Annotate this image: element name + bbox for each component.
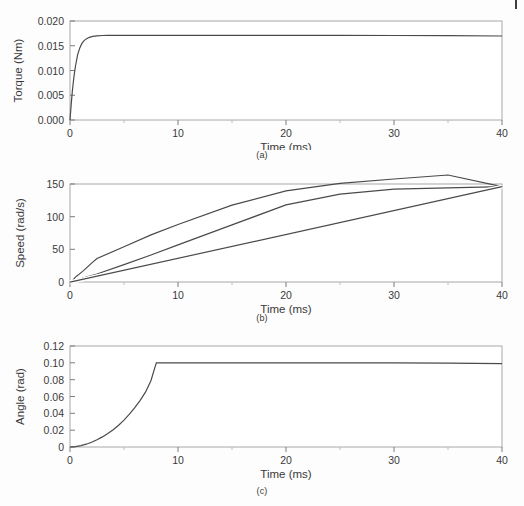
y-tick-label: 0.06	[44, 391, 65, 403]
y-tick-label: 0.000	[38, 114, 64, 126]
panel-angle: 0 0.02 0.04 0.06 0.08 0.10 0.12 0 10	[0, 333, 524, 506]
y-tick-label: 50	[52, 243, 64, 255]
chart-angle: 0 0.02 0.04 0.06 0.08 0.10 0.12 0 10	[0, 333, 524, 488]
x-tick-label: 10	[172, 454, 184, 466]
panel-speed: 0 50 100 150 0 10 20 30 40	[0, 165, 524, 333]
x-tick-label: 20	[280, 127, 292, 139]
y-tick-label: 0.04	[44, 407, 65, 419]
x-tick-label: 0	[67, 127, 73, 139]
x-tick-label: 40	[496, 127, 508, 139]
x-tick-label: 20	[280, 289, 292, 301]
plot-frame-c	[70, 346, 502, 447]
x-tick-label: 30	[388, 289, 400, 301]
y-tick-label: 0.010	[38, 65, 64, 77]
y-tick-label: 0.020	[38, 15, 64, 27]
x-axis-b: 0 10 20 30 40	[67, 282, 508, 301]
x-tick-label: 30	[388, 127, 400, 139]
panel-caption-c: (c)	[0, 486, 524, 496]
x-tick-label: 0	[67, 289, 73, 301]
y-axis-a: 0.000 0.005 0.010 0.015 0.020	[38, 15, 75, 126]
y-tick-label: 0	[58, 276, 64, 288]
x-tick-label: 0	[67, 454, 73, 466]
y-tick-label: 150	[46, 178, 64, 190]
x-tick-label: 30	[388, 454, 400, 466]
panel-caption-a: (a)	[0, 150, 524, 160]
x-axis-a: 0 10 20 30 40	[67, 120, 508, 139]
x-axis-c: 0 10 20 30 40	[67, 447, 508, 466]
y-tick-label: 0.015	[38, 40, 64, 52]
y-tick-label: 0.02	[44, 424, 65, 436]
y-tick-label: 0	[58, 441, 64, 453]
panel-caption-b: (b)	[0, 313, 524, 323]
x-tick-label: 10	[172, 289, 184, 301]
y-tick-label: 0.08	[44, 374, 65, 386]
y-tick-label: 100	[46, 211, 64, 223]
x-tick-label: 10	[172, 127, 184, 139]
panel-torque: 0.000 0.005 0.010 0.015 0.020 0 10 20	[0, 0, 524, 170]
y-tick-label: 0.12	[44, 340, 65, 352]
chart-torque: 0.000 0.005 0.010 0.015 0.020 0 10 20	[0, 0, 524, 150]
x-tick-label: 40	[496, 289, 508, 301]
figure-three-panel-plots: 0.000 0.005 0.010 0.015 0.020 0 10 20	[0, 0, 524, 506]
x-tick-label: 20	[280, 454, 292, 466]
y-tick-label: 0.005	[38, 89, 64, 101]
x-tick-label: 40	[496, 454, 508, 466]
chart-speed: 0 50 100 150 0 10 20 30 40	[0, 165, 524, 315]
y-tick-label: 0.10	[44, 357, 65, 369]
